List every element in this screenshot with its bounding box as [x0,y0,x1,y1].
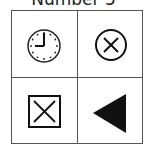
cell-bottom-right[interactable] [78,78,143,144]
cell-bottom-left[interactable] [12,78,77,144]
cell-top-right[interactable] [78,11,143,77]
puzzle-title: Number 5 [0,0,147,8]
clock-icon [12,11,77,77]
circle-x-icon [78,11,143,77]
left-triangle-icon [78,78,143,144]
cell-top-left[interactable] [12,11,77,77]
icon-grid [11,10,143,144]
square-x-icon [12,78,77,144]
